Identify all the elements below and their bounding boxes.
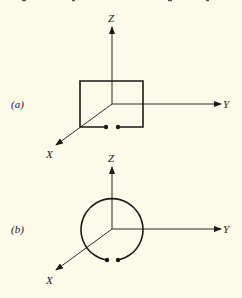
figure: Z Y X (a) Z Y X (b) (0, 0, 242, 298)
cropped-caption-remnant (22, 0, 209, 1)
panel-label-b: (b) (11, 223, 24, 236)
terminal-dot-right-b (116, 258, 120, 262)
z-axis-label-a: Z (108, 12, 115, 24)
y-axis-label-a: Y (223, 98, 231, 110)
x-axis-a (56, 104, 112, 145)
x-axis-label-b: X (45, 274, 54, 286)
panel-label-a: (a) (11, 98, 24, 111)
terminal-dot-left-b (105, 258, 109, 262)
x-axis-label-a: X (45, 148, 54, 160)
x-axis-b (56, 229, 112, 270)
y-axis-label-b: Y (223, 223, 231, 235)
panel-a: Z Y X (a) (11, 12, 231, 160)
z-axis-label-b: Z (108, 152, 115, 164)
terminal-dot-left-a (104, 125, 108, 129)
diagram-canvas: Z Y X (a) Z Y X (b) (0, 0, 242, 298)
terminal-dot-right-a (116, 125, 120, 129)
panel-b: Z Y X (b) (11, 152, 231, 286)
